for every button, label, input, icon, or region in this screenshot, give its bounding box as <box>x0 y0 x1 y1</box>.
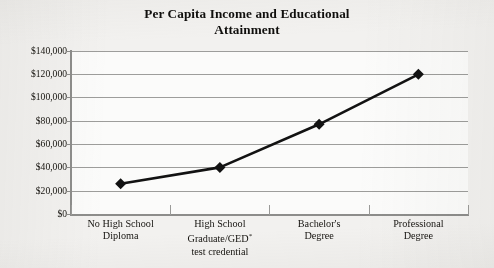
series-markers <box>115 69 424 189</box>
x-label-line: Degree <box>272 230 367 242</box>
x-axis-tick-mark <box>468 205 469 215</box>
x-label-line: Diploma <box>73 230 168 242</box>
x-label-line: test credential <box>172 246 267 258</box>
data-point-marker <box>413 69 424 80</box>
chart-figure: Per Capita Income and Educational Attain… <box>0 0 494 268</box>
x-label-line: Professional <box>371 218 466 230</box>
x-axis-labels: No High School Diploma High School Gradu… <box>71 218 468 264</box>
data-series <box>71 51 468 214</box>
x-axis-category-label: No High School Diploma <box>71 218 170 264</box>
x-label-line: High School <box>172 218 267 230</box>
data-point-marker <box>115 178 126 189</box>
x-label-line: Degree <box>371 230 466 242</box>
x-axis-category-label: High School Graduate/GED* test credentia… <box>170 218 269 264</box>
x-label-line: Bachelor's <box>272 218 367 230</box>
x-label-line: Graduate/GED* <box>172 230 267 246</box>
x-axis-category-label: Bachelor's Degree <box>270 218 369 264</box>
x-axis-category-label: Professional Degree <box>369 218 468 264</box>
footnote-marker: * <box>249 232 253 240</box>
series-line <box>121 74 419 183</box>
data-point-marker <box>314 119 325 130</box>
data-point-marker <box>214 162 225 173</box>
x-label-line: No High School <box>73 218 168 230</box>
